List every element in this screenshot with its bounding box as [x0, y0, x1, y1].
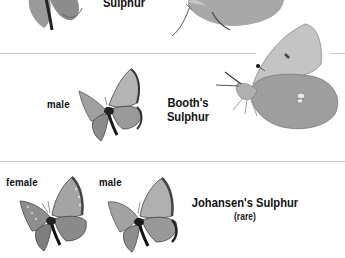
butterfly-dorsal-partial-image	[22, 0, 82, 34]
species-name-line: Johansen's Sulphur	[189, 196, 301, 210]
species-name-booths-sulphur: Booth's Sulphur	[164, 96, 212, 124]
species-name-line: Booth's	[164, 96, 212, 110]
specimen-label-male: male	[47, 98, 70, 110]
species-name-johansens-sulphur: Johansen's Sulphur (rare)	[189, 196, 301, 224]
butterfly-johansens-male-image	[106, 176, 178, 254]
butterfly-booths-male-image	[77, 67, 147, 142]
section-divider	[0, 161, 345, 162]
species-name-line: Sulphur	[103, 0, 145, 10]
species-name-top-partial: Sulphur	[98, 0, 150, 10]
species-name-line: Sulphur	[164, 110, 212, 124]
butterfly-johansens-female-image	[18, 175, 88, 253]
rarity-note: (rare)	[189, 210, 301, 224]
butterfly-booths-ventral-image	[215, 22, 345, 132]
